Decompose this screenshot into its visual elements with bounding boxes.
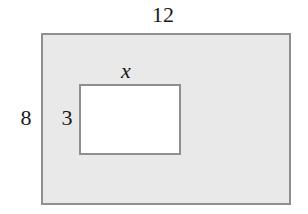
inner-width-label: x [116,60,136,82]
outer-width-label: 12 [148,4,178,26]
inner-rectangle [79,84,181,155]
inner-height-label: 3 [59,107,75,129]
outer-height-label: 8 [18,107,34,129]
